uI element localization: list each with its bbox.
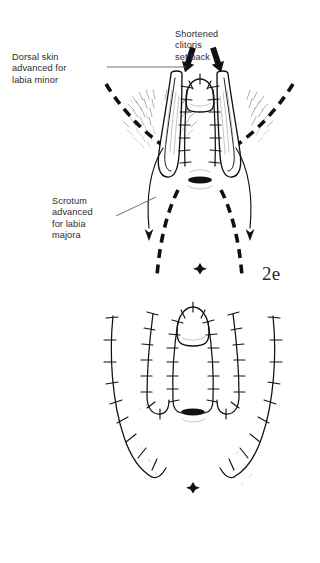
figure-2f: Completed closure 2f <box>0 296 320 563</box>
labia-majora-suture-left <box>104 316 157 477</box>
skin-shading <box>133 404 252 485</box>
labia-minora-suture-right <box>217 312 245 419</box>
labia-minora-suture-left <box>141 312 169 419</box>
figure-number-2e: 2e <box>262 263 281 285</box>
anus-marker <box>193 263 207 275</box>
label-scrotum-advanced: Scrotum advanced for labia majora <box>52 196 130 242</box>
labia-minora-flap-left <box>158 71 182 177</box>
hair-bearing-skin-left <box>123 90 155 148</box>
labia-minora-flap-right <box>217 71 241 177</box>
vaginal-introitus <box>188 170 212 189</box>
vaginal-introitus <box>181 408 205 422</box>
anus-marker <box>186 482 200 494</box>
labia-majora-apex-left <box>152 468 166 478</box>
label-dorsal-skin: Dorsal skin advanced for labia minor <box>12 52 108 86</box>
figure-2e-drawing <box>0 0 320 300</box>
illustration-page: Dorsal skin advanced for labia minor Sho… <box>0 0 320 563</box>
label-shortened-clitoris: Shortened clitoris set back <box>175 29 267 63</box>
figure-2e: Dorsal skin advanced for labia minor Sho… <box>0 0 320 300</box>
labia-majora-apex-right <box>220 468 234 478</box>
figure-2f-drawing <box>0 296 320 563</box>
